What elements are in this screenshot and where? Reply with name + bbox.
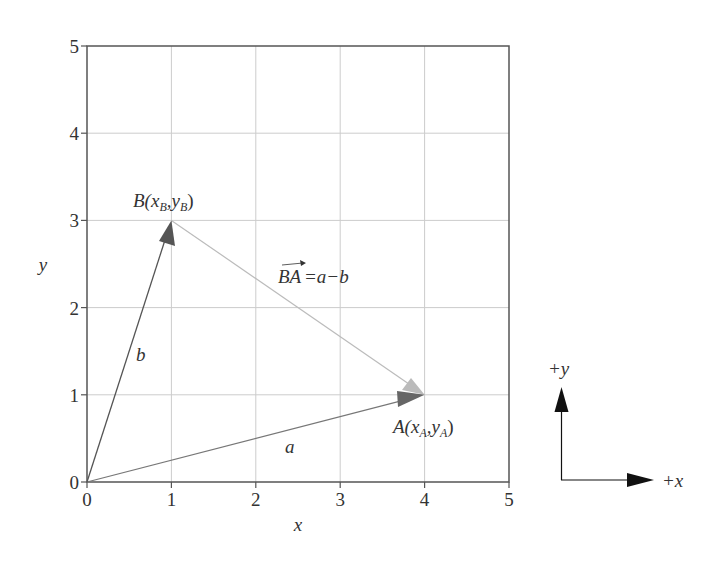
vector-a-label: a	[285, 436, 295, 457]
overarrow-line	[282, 263, 303, 265]
y-tick-3: 3	[70, 210, 80, 231]
x-tick-0: 0	[82, 489, 92, 510]
vector-b	[87, 220, 175, 482]
point-b-label: B(xB,yB)	[133, 190, 194, 214]
vector-b-label: b	[136, 344, 146, 365]
x-axis-label: x	[293, 514, 303, 535]
x-tick-5: 5	[504, 489, 514, 510]
svg-text:=a−b: =a−b	[304, 266, 349, 287]
plus-y-label: +y	[548, 358, 570, 379]
x-tick-3: 3	[335, 489, 345, 510]
svg-text:BA: BA	[278, 266, 302, 287]
x-tick-2: 2	[251, 489, 261, 510]
vector-diagram: 0 1 2 3 4 5 0 1 2 3 4 5 x y B(xB,yB) A(x…	[0, 0, 725, 563]
plus-y-arrow-icon	[555, 387, 569, 412]
y-tick-5: 5	[70, 36, 80, 57]
y-tick-1: 1	[70, 385, 80, 406]
vector-ba-label: BA =a−b	[278, 260, 349, 287]
y-tick-labels: 0 1 2 3 4 5	[70, 36, 80, 493]
orientation-legend: +y +x	[548, 358, 684, 491]
y-tick-0: 0	[70, 472, 80, 493]
plot-frame	[87, 46, 509, 482]
x-tick-1: 1	[167, 489, 177, 510]
x-tick-4: 4	[420, 489, 430, 510]
grid	[87, 46, 509, 482]
y-tick-2: 2	[70, 298, 80, 319]
x-tick-labels: 0 1 2 3 4 5	[82, 489, 514, 510]
plus-x-label: +x	[662, 470, 684, 491]
y-tick-4: 4	[70, 123, 80, 144]
vector-b-arrowhead-icon	[159, 220, 175, 246]
plus-x-arrow-icon	[627, 473, 654, 487]
y-axis-label: y	[37, 254, 48, 275]
point-a-label: A(xA,yA)	[391, 416, 454, 440]
